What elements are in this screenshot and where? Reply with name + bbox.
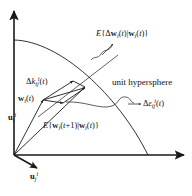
uj-axis [14, 155, 37, 168]
tangent-line [38, 55, 118, 117]
label-w-i-t: wi(t) [18, 94, 34, 103]
label-delta-k: Δkiji(t) [26, 77, 48, 86]
leader-arrow-expected-delta-w [102, 44, 113, 55]
label-axis-ui: uii [8, 113, 16, 122]
vector-delta-epsilon [43, 100, 63, 103]
vector-w-i-t [14, 100, 43, 155]
label-expected-w-next: E{wi(t+1)|wi(t)} [43, 121, 99, 130]
label-expected-delta-w: E{Δwi(t)|wi(t)} [96, 29, 148, 38]
label-axis-uj: uji [30, 172, 38, 181]
label-unit-hypersphere: unit hypersphere [112, 78, 172, 87]
figure-container: E{Δwi(t)|wi(t)} unit hypersphere Δkiji(t… [0, 0, 192, 196]
label-delta-epsilon: Δεiji(t) [143, 99, 164, 108]
leader-delta-epsilon [66, 97, 134, 107]
